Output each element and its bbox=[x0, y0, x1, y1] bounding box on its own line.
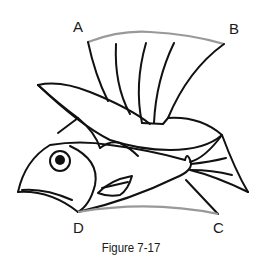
figure-caption: Figure 7-17 bbox=[16, 240, 247, 255]
figure: A B D C Figure 7-17 bbox=[0, 0, 262, 260]
arc-a-b bbox=[88, 32, 224, 44]
point-label-a: A bbox=[73, 19, 83, 34]
dorsal-ray-5 bbox=[168, 44, 224, 118]
point-label-d: D bbox=[73, 220, 84, 235]
eye-pupil bbox=[55, 155, 65, 165]
point-label-c: C bbox=[213, 220, 224, 235]
gill-line bbox=[70, 146, 96, 212]
wing-right-edge bbox=[38, 85, 222, 150]
pectoral-wing-upper bbox=[38, 84, 150, 124]
dorsal-ray-3 bbox=[139, 43, 146, 123]
body-top-curve bbox=[18, 192, 78, 212]
point-label-b: B bbox=[229, 21, 239, 36]
head-line bbox=[58, 118, 78, 133]
